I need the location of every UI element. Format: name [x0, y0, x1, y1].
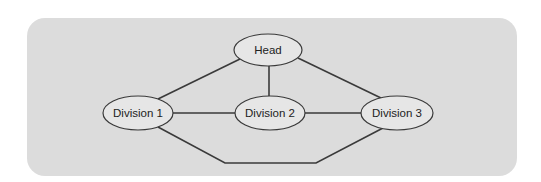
org-diagram: Head Division 1 Division 2 Division 3 — [0, 0, 541, 182]
node-label-division-3: Division 3 — [372, 107, 422, 119]
edge-head-div1 — [158, 59, 240, 99]
node-label-head: Head — [254, 44, 282, 56]
node-division-3[interactable]: Division 3 — [361, 96, 433, 130]
node-division-2[interactable]: Division 2 — [235, 96, 305, 130]
node-label-division-2: Division 2 — [245, 107, 295, 119]
edge-div1-div3-bottom — [158, 127, 383, 163]
edge-head-div3 — [298, 58, 381, 98]
node-division-1[interactable]: Division 1 — [103, 96, 173, 130]
node-label-division-1: Division 1 — [113, 107, 163, 119]
node-head[interactable]: Head — [234, 34, 302, 66]
